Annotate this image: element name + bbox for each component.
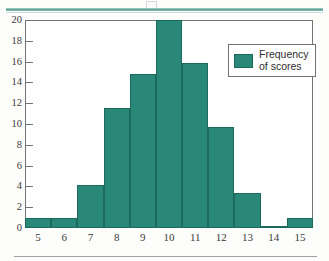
legend-swatch-frequency [234,54,253,68]
y-axis-tick-label: 18 [4,36,22,47]
x-axis-tick-label: 8 [114,232,120,243]
x-axis-tick-label: 6 [62,232,68,243]
histogram-bar [261,226,287,228]
x-axis-tick-label: 7 [88,232,94,243]
legend-label-line-1: Frequency [259,49,309,61]
y-axis-tick-label: 8 [4,140,22,151]
x-axis-tick-label: 9 [140,232,146,243]
x-axis-tick-label: 12 [216,232,227,243]
x-axis-tick-label: 15 [294,232,305,243]
histogram-bar [104,108,130,228]
histogram-bar [130,74,156,228]
histogram-chart: 02468101214161820 56789101112131415 Freq… [0,0,329,261]
y-axis-tick-label: 12 [4,98,22,109]
x-axis-tick-label: 13 [242,232,253,243]
y-axis-tick-labels: 02468101214161820 [0,20,22,228]
x-axis-tick-label: 14 [268,232,279,243]
histogram-bar [287,218,313,228]
x-axis-tick-label: 10 [164,232,175,243]
y-axis-tick-label: 4 [4,181,22,192]
chart-legend: Frequency of scores [228,44,316,77]
y-axis-tick-label: 20 [4,15,22,26]
histogram-bar [25,218,51,228]
y-axis-tick-label: 14 [4,77,22,88]
legend-label-frequency: Frequency of scores [259,49,309,72]
y-axis-tick-label: 0 [4,223,22,234]
x-axis-tick-labels: 56789101112131415 [25,232,313,248]
y-axis-tick-label: 2 [4,202,22,213]
legend-label-line-2: of scores [259,61,309,73]
histogram-bar [156,20,182,228]
x-axis-tick-label: 5 [35,232,41,243]
histogram-bar [51,218,77,228]
y-axis-tick-label: 10 [4,119,22,130]
y-axis-tick-label: 16 [4,56,22,67]
y-axis-tick-label: 6 [4,160,22,171]
histogram-bar [77,185,103,228]
x-axis-tick-label: 11 [190,232,201,243]
histogram-bar [182,63,208,228]
histogram-bar [234,193,260,228]
histogram-bar [208,127,234,228]
